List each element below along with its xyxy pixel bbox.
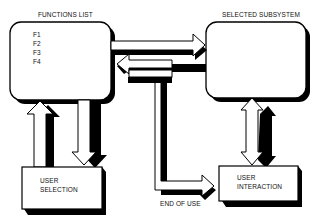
functions-list-box xyxy=(10,22,115,104)
user-selection-label-line2: SELECTION xyxy=(40,187,78,194)
function-item-f4: F4 xyxy=(33,57,41,66)
arrow-selection-to-functions xyxy=(27,101,60,170)
arrow-subsystem-to-functions xyxy=(117,54,206,83)
user-interaction-label-line1: USER xyxy=(237,175,255,182)
functions-list-title: FUNCTIONS LIST xyxy=(38,12,93,19)
end-of-use-label: END OF USE xyxy=(160,201,201,208)
function-item-f1: F1 xyxy=(33,30,41,39)
function-item-f3: F3 xyxy=(33,48,41,57)
function-item-f2: F2 xyxy=(33,39,41,48)
functions-list-items: F1 F2 F3 F4 xyxy=(33,30,41,66)
selected-subsystem-title: SELECTED SUBSYSTEM xyxy=(222,12,300,19)
selected-subsystem-box xyxy=(206,22,310,102)
arrow-subsystem-user-interaction xyxy=(241,98,276,168)
arrow-functions-to-selection xyxy=(72,100,107,168)
user-selection-label-line1: USER xyxy=(40,178,58,185)
arrow-functions-to-subsystem xyxy=(111,34,207,60)
user-interaction-label-line2: INTERACTION xyxy=(237,184,282,191)
